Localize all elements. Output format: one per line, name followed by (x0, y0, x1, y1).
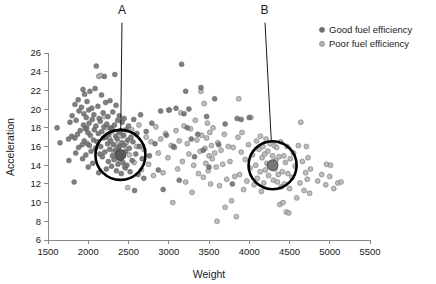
scatter-point (133, 151, 138, 156)
scatter-point (216, 142, 221, 147)
scatter-point (281, 200, 286, 205)
scatter-point (102, 74, 107, 79)
scatter-point (121, 133, 126, 138)
scatter-point (136, 123, 141, 128)
legend-marker-good (319, 27, 324, 32)
y-tick-label: 6 (36, 234, 41, 245)
scatter-point (147, 153, 152, 158)
scatter-point (255, 176, 260, 181)
scatter-point (280, 169, 285, 174)
scatter-point (153, 124, 158, 129)
scatter-point (166, 108, 171, 113)
scatter-point (246, 142, 251, 147)
legend-label-good: Good fuel efficiency (329, 24, 413, 35)
scatter-point (105, 114, 110, 119)
scatter-point (263, 167, 268, 172)
scatter-point (107, 147, 112, 152)
scatter-point (253, 163, 258, 168)
scatter-point (171, 144, 176, 149)
scatter-point (236, 96, 241, 101)
scatter-point (174, 106, 179, 111)
scatter-point (185, 125, 190, 130)
y-tick-label: 18 (30, 122, 41, 133)
scatter-point (100, 154, 105, 159)
scatter-point (214, 165, 219, 170)
scatter-point (195, 132, 200, 137)
scatter-point (151, 173, 156, 178)
scatter-point (114, 168, 119, 173)
scatter-point (223, 122, 228, 127)
scatter-point (84, 125, 89, 130)
scatter-point (87, 89, 92, 94)
callout-leader-line (265, 23, 271, 142)
scatter-point (189, 137, 194, 142)
scatter-point (277, 154, 282, 159)
scatter-point (127, 146, 132, 151)
scatter-point (319, 172, 324, 177)
scatter-point (294, 195, 299, 200)
scatter-point (192, 154, 197, 159)
x-tick-label: 4500 (279, 246, 300, 257)
scatter-point (99, 93, 104, 98)
scatter-point (91, 112, 96, 117)
scatter-point (106, 159, 111, 164)
scatter-point (94, 64, 99, 69)
scatter-point (161, 187, 166, 192)
scatter-point (215, 219, 220, 224)
x-tick-label: 3500 (198, 246, 219, 257)
scatter-point (158, 137, 163, 142)
scatter-point (285, 171, 290, 176)
scatter-point (234, 214, 239, 219)
scatter-point (82, 92, 87, 97)
scatter-point (89, 149, 94, 154)
scatter-point (183, 89, 188, 94)
scatter-point (331, 186, 336, 191)
scatter-point (57, 140, 62, 145)
scatter-point (90, 161, 95, 166)
scatter-point (288, 156, 293, 161)
scatter-point (144, 129, 149, 134)
scatter-point (227, 159, 232, 164)
scatter-point (87, 143, 92, 148)
series-poor-fuel-efficiency-points (96, 73, 343, 224)
scatter-point (300, 159, 305, 164)
scatter-point (198, 85, 203, 90)
scatter-point (112, 123, 117, 128)
scatter-point (179, 62, 184, 67)
scatter-point (74, 118, 79, 123)
scatter-point (72, 102, 77, 107)
scatter-point (165, 155, 170, 160)
scatter-point (137, 144, 142, 149)
scatter-point (128, 169, 133, 174)
scatter-point (161, 170, 166, 175)
scatter-point (258, 169, 263, 174)
scatter-point (138, 112, 143, 117)
scatter-point (130, 139, 135, 144)
scatter-point (239, 117, 244, 122)
scatter-point (222, 132, 227, 137)
x-axis-title: Weight (193, 268, 226, 280)
scatter-point (237, 172, 242, 177)
scatter-point (183, 180, 188, 185)
scatter-point (191, 163, 196, 168)
scatter-point (119, 171, 124, 176)
scatter-point (81, 87, 86, 92)
x-tick-label: 2000 (78, 246, 99, 257)
callout-leader-line (121, 23, 122, 130)
x-tick-label: 5000 (319, 246, 340, 257)
scatter-point (141, 176, 146, 181)
chart-canvas: AB 6810121416182022242615002000250030003… (0, 0, 436, 284)
scatter-point (149, 121, 154, 126)
scatter-point (258, 134, 263, 139)
scatter-point (220, 162, 225, 167)
scatter-point (101, 110, 106, 115)
scatter-point (244, 179, 249, 184)
scatter-point (232, 174, 237, 179)
scatter-point (240, 130, 245, 135)
scatter-point (210, 156, 215, 161)
scatter-point (90, 117, 95, 122)
tick-labels-group: 6810121416182022242615002000250030003500… (30, 47, 380, 257)
y-tick-label: 12 (30, 178, 41, 189)
scatter-point (201, 175, 206, 180)
y-tick-label: 24 (30, 66, 41, 77)
